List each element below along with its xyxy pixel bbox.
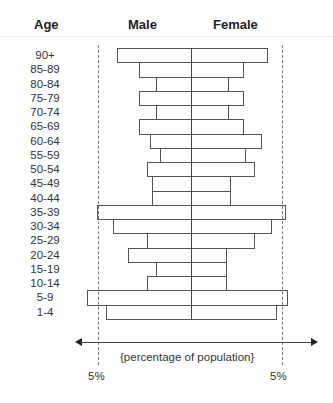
age-label: 50-54 [22,162,68,176]
female-bar [191,305,277,320]
female-bar [191,62,244,77]
female-5pct-reference-line [282,45,283,365]
male-bar [156,105,192,120]
age-label: 30-34 [22,219,68,233]
male-bar [160,148,192,163]
male-bar [156,262,192,277]
female-bar [191,91,244,106]
female-bar [191,219,272,234]
age-label: 40-44 [22,191,68,205]
female-bar [191,205,286,220]
age-label: 65-69 [22,119,68,133]
male-bar [150,134,192,149]
center-axis-line [191,48,192,319]
male-bar [147,276,192,291]
female-bar [191,276,227,291]
male-bar [87,290,192,305]
female-bar [191,262,227,277]
left-tick-label: 5% [88,370,105,382]
female-bar [191,176,231,191]
age-label: 55-59 [22,148,68,162]
x-axis-label: {percentage of population} [120,351,254,363]
age-label: 1-4 [22,305,68,319]
male-bar [113,219,192,234]
age-label: 5-9 [22,290,68,304]
male-bar [97,205,192,220]
female-bar [191,105,229,120]
age-label: 75-79 [22,91,68,105]
female-bar [191,48,268,63]
age-header: Age [34,17,59,32]
age-label: 35-39 [22,205,68,219]
age-label: 45-49 [22,176,68,190]
female-bar [191,290,288,305]
female-bar [191,248,227,263]
female-bar [191,134,262,149]
age-label: 85-89 [22,62,68,76]
age-label: 70-74 [22,105,68,119]
male-5pct-reference-line [98,45,99,365]
male-bar [139,91,192,106]
right-tick-label: 5% [270,370,287,382]
female-bar [191,77,229,92]
male-bar [128,248,192,263]
age-label: 20-24 [22,248,68,262]
age-label: 15-19 [22,262,68,276]
male-bar [139,119,192,134]
age-label: 60-64 [22,134,68,148]
age-label: 80-84 [22,77,68,91]
female-header: Female [213,17,258,32]
male-bar [147,162,192,177]
male-bar [106,305,192,320]
female-bar [191,191,231,206]
male-bar [152,191,192,206]
male-bar [117,48,192,63]
male-bar [139,62,192,77]
female-bar [191,233,255,248]
female-bar [191,162,255,177]
age-label: 10-14 [22,276,68,290]
header-separator [0,36,333,37]
male-header: Male [128,17,157,32]
age-label: 25-29 [22,233,68,247]
male-bar [152,176,192,191]
right-arrow-icon [311,338,318,346]
age-label: 90+ [22,48,68,62]
female-bar [191,119,244,134]
x-axis-line [80,342,312,343]
female-bar [191,148,246,163]
male-bar [156,77,192,92]
male-bar [147,233,192,248]
